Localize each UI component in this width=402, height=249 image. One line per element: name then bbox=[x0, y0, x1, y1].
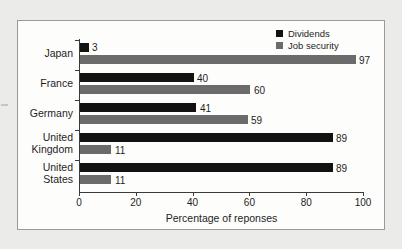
category-label-japan-line1: Japan bbox=[0, 47, 73, 59]
y-axis-tick bbox=[75, 130, 79, 131]
x-axis-tick bbox=[136, 193, 137, 196]
bar-japan-dividends bbox=[80, 43, 89, 52]
bar-value-germany-dividends: 41 bbox=[200, 104, 211, 113]
bar-germany-job-security bbox=[80, 115, 248, 124]
y-axis-tick bbox=[75, 70, 79, 71]
category-label-us-line2: States bbox=[0, 173, 73, 185]
x-axis-line bbox=[79, 192, 364, 193]
bar-value-united-states-job-security: 11 bbox=[115, 176, 125, 185]
bar-value-germany-job-security: 59 bbox=[251, 116, 262, 125]
x-axis-tick bbox=[249, 193, 250, 196]
bar-value-united-states-dividends: 89 bbox=[336, 164, 347, 173]
bar-value-united-kingdom-dividends: 89 bbox=[336, 134, 347, 143]
bar-united-states-job-security bbox=[80, 175, 111, 184]
bar-germany-dividends bbox=[80, 103, 196, 112]
category-label-uk-line1: United bbox=[0, 131, 73, 143]
page-background: Dividends Job security 0 2 bbox=[0, 0, 402, 249]
x-axis-tick bbox=[193, 193, 194, 196]
bar-value-france-job-security: 60 bbox=[254, 86, 265, 95]
bar-united-kingdom-job-security bbox=[80, 145, 111, 154]
x-tick-label-100: 100 bbox=[355, 197, 372, 208]
legend-label-dividends: Dividends bbox=[288, 28, 330, 39]
x-axis-tick bbox=[306, 193, 307, 196]
x-tick-label-0: 0 bbox=[76, 197, 82, 208]
bar-value-france-dividends: 40 bbox=[197, 74, 208, 83]
x-tick-label-20: 20 bbox=[130, 197, 141, 208]
x-tick-label-80: 80 bbox=[301, 197, 312, 208]
bar-value-japan-job-security: 97 bbox=[359, 56, 370, 65]
category-label-united-states: United States bbox=[0, 161, 73, 185]
x-tick-label-60: 60 bbox=[244, 197, 255, 208]
y-axis-tick bbox=[75, 160, 79, 161]
chart-figure-panel: Dividends Job security 0 2 bbox=[17, 20, 385, 230]
x-axis-tick bbox=[363, 193, 364, 196]
plot-area: 0 20 40 60 80 100 Japan 3 97 France 40 6… bbox=[79, 39, 363, 192]
category-label-uk-line2: Kingdom bbox=[0, 143, 73, 155]
legend-swatch-dividends bbox=[276, 30, 283, 37]
bar-value-united-kingdom-job-security: 11 bbox=[115, 146, 125, 155]
bar-united-kingdom-dividends bbox=[80, 133, 333, 142]
category-label-us-line1: United bbox=[0, 161, 73, 173]
category-label-germany: Germany bbox=[0, 107, 73, 119]
category-label-germany-line1: Germany bbox=[0, 107, 73, 119]
bar-value-japan-dividends: 3 bbox=[92, 43, 98, 52]
scan-edge-mark bbox=[1, 104, 8, 106]
x-axis-title: Percentage of reponses bbox=[79, 212, 364, 224]
y-axis-tick bbox=[75, 100, 79, 101]
bar-france-job-security bbox=[80, 85, 250, 94]
x-tick-label-40: 40 bbox=[187, 197, 198, 208]
category-label-japan: Japan bbox=[0, 47, 73, 59]
bar-france-dividends bbox=[80, 73, 194, 82]
category-label-france: France bbox=[0, 77, 73, 89]
x-axis-tick bbox=[79, 193, 80, 196]
bar-japan-job-security bbox=[80, 55, 356, 64]
legend-item-dividends: Dividends bbox=[276, 28, 380, 39]
y-axis-tick bbox=[75, 40, 79, 41]
category-label-united-kingdom: United Kingdom bbox=[0, 131, 73, 155]
bar-united-states-dividends bbox=[80, 163, 333, 172]
category-label-france-line1: France bbox=[0, 77, 73, 89]
